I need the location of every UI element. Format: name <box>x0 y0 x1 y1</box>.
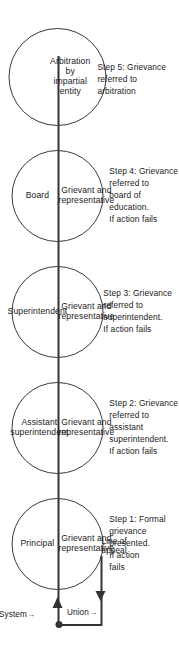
step-caption-5: Step 5: Grievance referred to arbitratio… <box>97 62 179 98</box>
union-label: Union→ <box>67 608 127 617</box>
entry-arrow-icon <box>52 597 62 608</box>
step-caption-1: Step 1: Formal grievance presented. If a… <box>109 514 179 574</box>
diagram-canvas: Line of appeal System→ Union→ Principal … <box>0 0 179 664</box>
step-caption-3: Step 3: Grievance referred to superinten… <box>103 288 179 336</box>
step-caption-4: Step 4: Grievance referred to board of e… <box>109 166 179 226</box>
line-of-appeal-stub <box>57 624 101 626</box>
system-label: System→ <box>0 610 59 619</box>
step-caption-2: Step 2: Grievance referred to assistant … <box>109 398 179 458</box>
line-of-appeal-arrow-icon <box>95 591 105 601</box>
diagram-stage: Line of appeal System→ Union→ Principal … <box>0 0 179 664</box>
line-of-appeal-origin-dot <box>55 622 62 629</box>
